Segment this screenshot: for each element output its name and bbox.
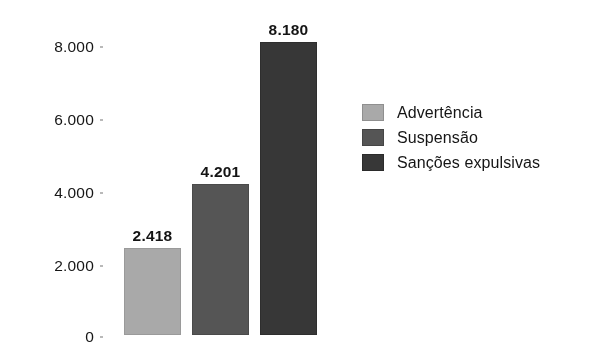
y-axis-tick-mark: [100, 192, 103, 194]
y-axis-tick: 4.000: [0, 183, 108, 203]
legend-swatch-icon: [362, 104, 384, 121]
bar-suspensao[interactable]: 4.201: [192, 184, 249, 335]
bar-value-label: 4.201: [201, 163, 241, 181]
legend-item-suspensao[interactable]: Suspensão: [362, 125, 602, 150]
y-axis-tick: 8.000: [0, 37, 108, 57]
bar-rect[interactable]: [192, 184, 249, 335]
y-axis-tick-mark: [100, 46, 103, 48]
bar-sancoes-expulsivas[interactable]: 8.180: [260, 42, 317, 335]
y-axis-tick: 2.000: [0, 256, 108, 276]
legend-item-sancoes-expulsivas[interactable]: Sanções expulsivas: [362, 150, 602, 175]
bar-rect[interactable]: [260, 42, 317, 335]
y-axis-tick-mark: [100, 119, 103, 121]
y-axis-tick: 6.000: [0, 110, 108, 130]
bar-value-label: 8.180: [269, 21, 309, 39]
y-axis-tick-label: 0: [85, 327, 108, 347]
bar-value-label: 2.418: [133, 227, 173, 245]
legend-item-advertencia[interactable]: Advertência: [362, 100, 602, 125]
legend-swatch-icon: [362, 129, 384, 146]
legend-item-label: Advertência: [397, 104, 483, 122]
legend-swatch-icon: [362, 154, 384, 171]
legend-item-label: Sanções expulsivas: [397, 154, 540, 172]
y-axis-tick-mark: [100, 336, 103, 338]
y-axis-tick: 0: [0, 327, 108, 347]
legend-item-label: Suspensão: [397, 129, 478, 147]
legend: Advertência Suspensão Sanções expulsivas: [362, 100, 602, 175]
y-axis-tick-mark: [100, 265, 103, 267]
y-axis: 8.000 6.000 4.000 2.000 0: [0, 0, 108, 361]
plot-area: 2.418 4.201 8.180: [108, 0, 348, 361]
bar-chart: 8.000 6.000 4.000 2.000 0 2.418 4.201: [0, 0, 607, 361]
bar-rect[interactable]: [124, 248, 181, 335]
bar-advertencia[interactable]: 2.418: [124, 248, 181, 335]
